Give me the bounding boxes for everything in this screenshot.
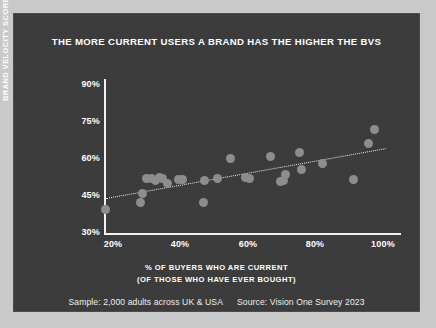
y-tick-label: 75% [56,116,100,126]
scatter-point [199,198,208,207]
scatter-point [364,139,373,148]
y-tick-label: 45% [56,190,100,200]
scatter-point [138,189,147,198]
footer-sample: Sample: 2,000 adults across UK & USA [68,297,223,307]
scatter-point [349,175,358,184]
y-tick-label: 30% [56,227,100,237]
scatter-point [297,165,306,174]
x-axis-title-line2: (OF THOSE WHO HAVE EVER BOUGHT) [137,275,296,284]
scatter-point [295,148,304,157]
y-tick-label: 90% [56,79,100,89]
x-tick-label: 80% [290,239,340,249]
y-tick-label: 60% [56,153,100,163]
scatter-plot-area [104,81,399,233]
scatter-point [200,176,209,185]
x-tick-label: 100% [358,239,408,249]
footer-source: Source: Vision One Survey 2023 [237,297,365,307]
scatter-point [136,198,145,207]
y-axis-title: BRAND VELOCITY SCORE (BVS) [1,0,10,101]
scatter-point [101,205,110,214]
scatter-point [178,175,187,184]
scatter-point [245,174,254,183]
footer-note: Sample: 2,000 adults across UK & USASour… [13,297,420,307]
x-tick-label: 60% [223,239,273,249]
scatter-point [266,152,275,161]
scatter-point [281,170,290,179]
scatter-point [226,154,235,163]
x-axis-title: % OF BUYERS WHO ARE CURRENT (OF THOSE WH… [13,262,420,285]
x-tick-label: 40% [155,239,205,249]
scatter-point [213,174,222,183]
x-axis-line [104,233,401,235]
x-axis-title-line1: % OF BUYERS WHO ARE CURRENT [145,263,288,272]
scatter-point [370,125,379,134]
chart-screenshot: THE MORE CURRENT USERS A BRAND HAS THE H… [0,0,436,328]
chart-panel: THE MORE CURRENT USERS A BRAND HAS THE H… [13,13,420,312]
x-tick-label: 20% [88,239,138,249]
scatter-point [318,159,327,168]
